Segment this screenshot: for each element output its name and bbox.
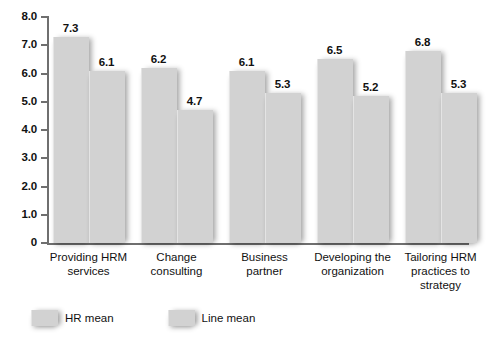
bar-value-label: 4.7 — [175, 95, 215, 107]
bar — [89, 71, 125, 243]
legend-item-hr-mean: HR mean — [31, 310, 114, 326]
y-axis-tick-label: 2.0 — [3, 181, 37, 192]
y-axis-tick-label: 3.0 — [3, 152, 37, 163]
bar — [317, 59, 353, 243]
bar-chart: 01.02.03.04.05.06.07.08.0 7.36.16.24.76.… — [0, 0, 490, 347]
y-axis-tick-mark — [41, 129, 49, 131]
y-axis-tick-label: 5.0 — [3, 96, 37, 107]
bar — [353, 96, 389, 243]
bar — [177, 110, 213, 243]
y-axis-tick-mark — [41, 101, 49, 103]
y-axis-tick-mark — [41, 214, 49, 216]
bar-value-label: 6.8 — [403, 36, 443, 48]
bar-value-label: 5.2 — [351, 81, 391, 93]
legend-label: Line mean — [202, 312, 256, 324]
bar-value-label: 5.3 — [439, 78, 479, 90]
y-axis-tick-mark — [41, 73, 49, 75]
bar — [229, 71, 265, 243]
x-axis-category-label: Tailoring HRMpractices tostrategy — [389, 250, 490, 292]
y-axis-tick-mark — [41, 186, 49, 188]
bar — [405, 51, 441, 243]
chart-legend: HR mean Line mean — [31, 310, 255, 326]
y-axis-tick-label: 0 — [3, 237, 37, 248]
bar-value-label: 5.3 — [263, 78, 303, 90]
bar — [53, 37, 89, 243]
bar-value-label: 6.5 — [315, 44, 355, 56]
y-axis-tick-label: 8.0 — [3, 11, 37, 22]
y-axis-tick-mark — [41, 44, 49, 46]
legend-swatch-icon — [168, 310, 195, 326]
bar-value-label: 6.1 — [87, 56, 127, 68]
y-axis-tick-mark — [41, 16, 49, 18]
bar — [265, 93, 301, 243]
category-label-line: strategy — [389, 278, 490, 292]
legend-item-line-mean: Line mean — [168, 310, 256, 326]
category-label-line: practices to — [389, 264, 490, 278]
y-axis-tick-mark — [41, 157, 49, 159]
y-axis-tick-label: 4.0 — [3, 124, 37, 135]
y-axis-tick-label: 6.0 — [3, 68, 37, 79]
bar — [141, 68, 177, 243]
bar-value-label: 6.1 — [227, 56, 267, 68]
legend-label: HR mean — [65, 312, 114, 324]
bar-value-label: 6.2 — [139, 53, 179, 65]
x-axis-line — [47, 243, 469, 245]
category-label-line: Tailoring HRM — [389, 250, 490, 264]
bar-value-label: 7.3 — [51, 22, 91, 34]
bar — [441, 93, 477, 243]
y-axis-tick-mark — [41, 242, 49, 244]
y-axis-tick-label: 7.0 — [3, 39, 37, 50]
legend-swatch-icon — [31, 310, 58, 326]
y-axis-tick-label: 1.0 — [3, 209, 37, 220]
